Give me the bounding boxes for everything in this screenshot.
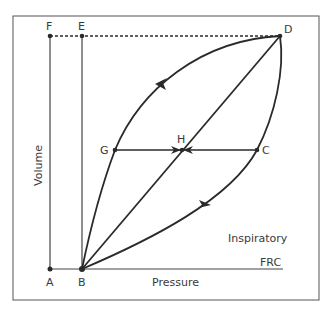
y-axis-label: Volume bbox=[32, 145, 45, 186]
point-c bbox=[255, 148, 260, 153]
inspiratory-label: Inspiratory bbox=[228, 232, 288, 245]
point-g bbox=[113, 148, 118, 153]
label-c: C bbox=[262, 144, 270, 157]
x-axis-label: Pressure bbox=[152, 276, 199, 289]
label-b: B bbox=[78, 276, 86, 289]
point-a bbox=[48, 267, 53, 272]
pv-loop-diagram: F E D A B G H C Pressure Volume Inspirat… bbox=[0, 0, 330, 312]
label-h: H bbox=[177, 133, 185, 146]
label-f: F bbox=[46, 20, 52, 33]
label-e: E bbox=[78, 20, 85, 33]
label-a: A bbox=[46, 276, 54, 289]
point-f bbox=[48, 34, 53, 39]
point-b bbox=[79, 266, 85, 272]
point-h bbox=[180, 148, 185, 153]
point-d bbox=[278, 34, 283, 39]
label-g: G bbox=[100, 144, 109, 157]
frc-label: FRC bbox=[260, 256, 281, 269]
label-d: D bbox=[284, 23, 292, 36]
point-e bbox=[80, 34, 85, 39]
